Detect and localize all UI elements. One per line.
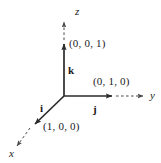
coordinate-axes-figure: z (0, 0, 1) k (0, 1, 0) y j i (1, 0, 0) … xyxy=(0,0,161,163)
vector-label-k: k xyxy=(68,65,74,76)
axes-drawing xyxy=(0,0,161,163)
axis-label-y: y xyxy=(150,90,155,101)
point-label-k: (0, 0, 1) xyxy=(69,38,106,49)
vector-label-j: j xyxy=(93,104,97,115)
point-label-j: (0, 1, 0) xyxy=(93,76,130,87)
point-label-i: (1, 0, 0) xyxy=(43,121,80,132)
x-axis-extension xyxy=(17,128,30,146)
vector-label-i: i xyxy=(40,103,43,114)
axis-label-x: x xyxy=(9,148,14,159)
axis-label-z: z xyxy=(75,6,79,17)
